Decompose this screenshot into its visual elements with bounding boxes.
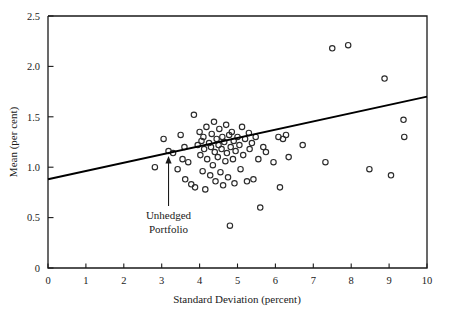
data-point [201, 146, 206, 151]
data-point [161, 136, 166, 141]
data-point-group [152, 43, 407, 229]
plot-canvas: 012345678910 00.51.01.52.02.5 UnhedgedPo… [0, 0, 450, 319]
data-point [209, 131, 214, 136]
data-point [300, 142, 305, 147]
data-point [256, 156, 261, 161]
y-tick-label: 2.5 [27, 11, 40, 22]
data-point [283, 132, 288, 137]
y-axis-ticks [48, 16, 54, 268]
data-point [197, 129, 202, 134]
data-point [198, 152, 203, 157]
data-point [200, 169, 205, 174]
data-point [220, 183, 225, 188]
x-tick-label: 10 [422, 275, 433, 286]
data-point [223, 158, 228, 163]
data-point [204, 156, 209, 161]
x-tick-label: 6 [273, 275, 278, 286]
data-point [152, 165, 157, 170]
data-point [192, 185, 197, 190]
data-point [286, 154, 291, 159]
data-point [251, 177, 256, 182]
y-tick-label: 0 [35, 263, 40, 274]
data-point [367, 167, 372, 172]
data-point [238, 167, 243, 172]
x-axis-title: Standard Deviation (percent) [173, 293, 301, 306]
data-point [247, 146, 252, 151]
data-point [227, 223, 232, 228]
x-tick-label: 1 [83, 275, 88, 286]
data-point [208, 173, 213, 178]
data-point [183, 177, 188, 182]
data-point [204, 124, 209, 129]
data-point [180, 156, 185, 161]
data-point [228, 144, 233, 149]
axis-frame-box [48, 16, 427, 268]
data-point [213, 179, 218, 184]
x-axis-ticks [48, 264, 427, 269]
data-point [239, 124, 244, 129]
data-point [237, 142, 242, 147]
data-point [345, 43, 350, 48]
y-tick-label: 1.0 [27, 162, 40, 173]
data-point [249, 140, 254, 145]
data-point [230, 156, 235, 161]
scatter-plot-figure: 012345678910 00.51.01.52.02.5 UnhedgedPo… [0, 0, 450, 319]
annotation-label-line1: Unhedged [146, 209, 192, 221]
data-point [191, 112, 196, 117]
x-tick-label: 2 [121, 275, 126, 286]
data-point [401, 117, 406, 122]
x-tick-label: 7 [311, 275, 316, 286]
data-point [175, 167, 180, 172]
data-point [402, 134, 407, 139]
data-point [240, 152, 245, 157]
plot-frame [48, 16, 427, 268]
data-point [382, 76, 387, 81]
x-tick-label: 5 [235, 275, 240, 286]
data-point [203, 187, 208, 192]
x-tick-label: 0 [45, 275, 50, 286]
data-point [214, 136, 219, 141]
data-point [223, 122, 228, 127]
y-tick-label: 0.5 [27, 212, 40, 223]
data-point [186, 159, 191, 164]
annotation-arrow-head [165, 156, 171, 164]
annotation-label-line2: Portfolio [149, 223, 189, 235]
x-tick-label: 8 [349, 275, 354, 286]
y-axis-title: Mean (per cent) [7, 107, 20, 178]
data-point [323, 159, 328, 164]
data-point [263, 149, 268, 154]
x-tick-label: 9 [386, 275, 391, 286]
data-point [178, 132, 183, 137]
y-tick-label: 1.5 [27, 112, 40, 123]
y-tick-label: 2.0 [27, 61, 40, 72]
data-point [271, 159, 276, 164]
data-point [330, 46, 335, 51]
x-axis-tick-labels: 012345678910 [45, 275, 432, 286]
data-point [225, 175, 230, 180]
data-point [210, 162, 215, 167]
data-point [211, 119, 216, 124]
data-point [212, 149, 217, 154]
data-point [224, 150, 229, 155]
data-point [388, 173, 393, 178]
data-point [218, 170, 223, 175]
data-point [244, 179, 249, 184]
data-point [258, 205, 263, 210]
data-point [233, 148, 238, 153]
data-point [277, 185, 282, 190]
data-point [219, 146, 224, 151]
y-axis-tick-labels: 00.51.01.52.02.5 [27, 11, 40, 274]
data-point [232, 181, 237, 186]
x-tick-label: 3 [159, 275, 164, 286]
x-tick-label: 4 [197, 275, 203, 286]
data-point [215, 154, 220, 159]
data-point [217, 126, 222, 131]
